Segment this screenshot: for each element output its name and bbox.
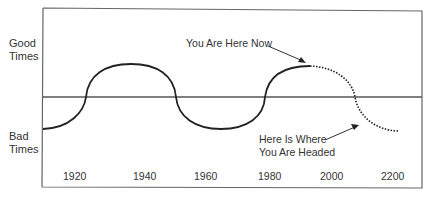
x-tick-1980: 1980	[258, 170, 281, 182]
x-tick-1940: 1940	[133, 170, 156, 182]
x-tick-1920: 1920	[63, 170, 86, 182]
x-tick-2000: 2000	[320, 170, 343, 182]
annotation-headed: Here Is Where You Are Headed	[259, 133, 335, 159]
annotation-now: You Are Here Now	[186, 37, 272, 50]
y-label-good: Good Times	[9, 37, 39, 63]
cycle-curve-projected	[310, 66, 398, 131]
frame	[42, 8, 422, 188]
y-label-bad: Bad Times	[9, 130, 39, 156]
x-tick-1960: 1960	[194, 170, 217, 182]
x-tick-2200: 2200	[381, 170, 404, 182]
arrow-now-icon	[268, 46, 306, 63]
